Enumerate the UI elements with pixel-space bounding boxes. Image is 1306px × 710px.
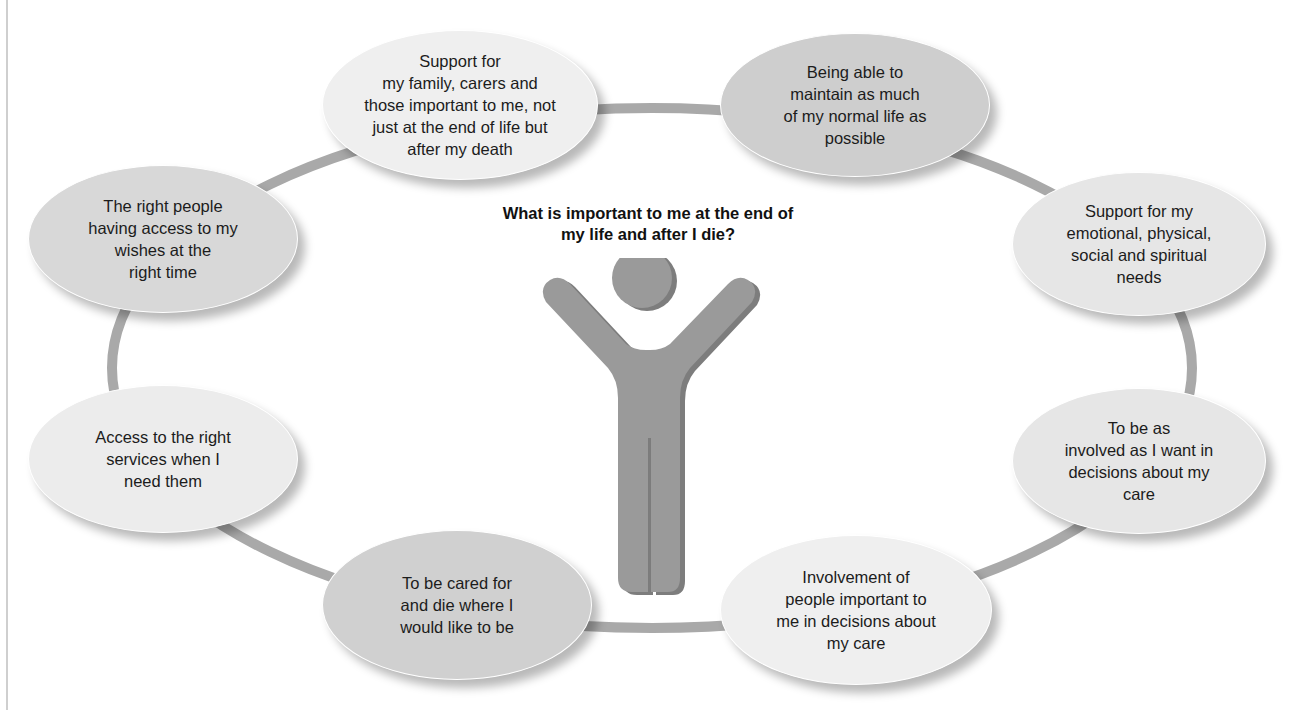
bubble-text: The right people having access to my wis… bbox=[88, 195, 237, 283]
bubble-holistic-needs: Support for my emotional, physical, soci… bbox=[1012, 172, 1266, 316]
bubble-text: Access to the right services when I need… bbox=[95, 426, 231, 492]
bubble-access-wishes: The right people having access to my wis… bbox=[28, 165, 298, 313]
bubble-place-of-care: To be cared for and die where I would li… bbox=[322, 530, 592, 680]
bubble-normal-life: Being able to maintain as much of my nor… bbox=[720, 33, 990, 177]
bubble-people-involvement: Involvement of people important to me in… bbox=[720, 535, 992, 685]
bubble-text: To be as involved as I want in decisions… bbox=[1065, 417, 1214, 505]
bubble-text: To be cared for and die where I would li… bbox=[400, 572, 514, 638]
bubble-text: Involvement of people important to me in… bbox=[776, 566, 936, 654]
person-arms-raised-icon bbox=[530, 258, 770, 598]
bubble-text: Support for my family, carers and those … bbox=[364, 50, 556, 160]
diagram-title: What is important to me at the end of my… bbox=[470, 203, 826, 245]
bubble-text: Support for my emotional, physical, soci… bbox=[1067, 200, 1212, 288]
bubble-access-services: Access to the right services when I need… bbox=[28, 385, 298, 533]
bubble-family-support: Support for my family, carers and those … bbox=[322, 30, 598, 180]
bubble-involved-decisions: To be as involved as I want in decisions… bbox=[1012, 388, 1266, 534]
bubble-text: Being able to maintain as much of my nor… bbox=[783, 61, 926, 149]
